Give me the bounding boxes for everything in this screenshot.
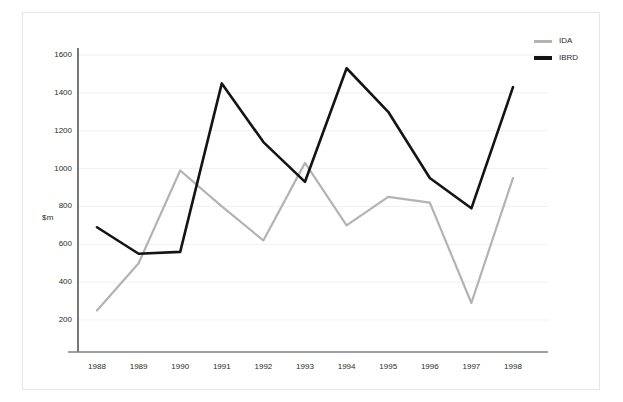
series-line-ibrd [97, 68, 513, 254]
x-tick-label: 1993 [285, 362, 325, 371]
legend-item-label: IBRD [559, 53, 578, 63]
legend-item-label: IDA [559, 36, 572, 46]
x-tick-label: 1994 [327, 362, 367, 371]
data-series-group [97, 68, 513, 310]
y-axis-title: $m [42, 213, 54, 222]
legend-swatch-icon [534, 56, 552, 60]
y-tick-label: 400 [40, 277, 72, 286]
x-tick-label: 1989 [119, 362, 159, 371]
chart-container: $m 2004006008001000120014001600 19881989… [0, 0, 623, 402]
y-tick-label: 1600 [40, 50, 72, 59]
y-tick-label: 200 [40, 315, 72, 324]
legend-item-ibrd[interactable]: IBRD [534, 53, 600, 63]
x-tick-label: 1991 [202, 362, 242, 371]
y-tick-label: 1400 [40, 88, 72, 97]
x-tick-label: 1990 [160, 362, 200, 371]
legend-swatch-icon [534, 40, 552, 43]
plot-area [0, 0, 623, 402]
x-tick-label: 1995 [368, 362, 408, 371]
x-tick-label: 1997 [451, 362, 491, 371]
y-tick-label: 1000 [40, 164, 72, 173]
y-tick-label: 600 [40, 239, 72, 248]
x-tick-label: 1992 [243, 362, 283, 371]
x-tick-label: 1998 [493, 362, 533, 371]
legend-item-ida[interactable]: IDA [534, 36, 600, 46]
y-tick-label: 1200 [40, 126, 72, 135]
y-tick-label: 800 [40, 201, 72, 210]
series-line-ida [97, 163, 513, 311]
chart-legend: IDAIBRD [534, 36, 600, 63]
x-tick-label: 1996 [410, 362, 450, 371]
x-tick-label: 1988 [77, 362, 117, 371]
